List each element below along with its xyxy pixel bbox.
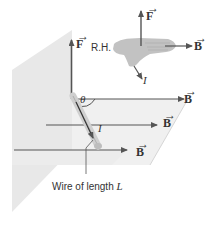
angle-label: θ bbox=[80, 93, 86, 105]
right-hand-label: R.H. bbox=[91, 42, 111, 53]
vector-arrow-glyph: → bbox=[195, 31, 207, 45]
wire-end bbox=[94, 143, 102, 149]
vector-arrow-glyph: → bbox=[147, 1, 159, 15]
hand-current-arrow bbox=[134, 66, 142, 79]
right-hand-icon bbox=[113, 38, 176, 67]
force-on-wire-diagram: F → B → B → B → θ I Wire of length L R.H… bbox=[0, 0, 215, 226]
vector-arrow-glyph: → bbox=[77, 29, 89, 43]
vector-arrow-glyph: → bbox=[137, 137, 149, 151]
wire-caption: Wire of length L bbox=[52, 180, 123, 192]
hand-current-label: I bbox=[142, 74, 148, 86]
vector-arrow-glyph: → bbox=[185, 84, 197, 98]
horizontal-plane-lower bbox=[12, 150, 127, 165]
vector-arrow-glyph: → bbox=[164, 108, 176, 122]
